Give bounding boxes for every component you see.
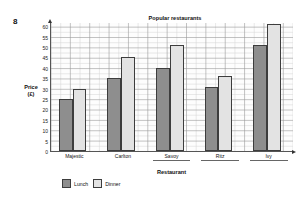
answer-rule xyxy=(201,160,239,161)
bar-savoy-lunch xyxy=(156,68,170,151)
chart-title: Popular restaurants xyxy=(50,15,300,21)
y-axis-tick-label: 55 xyxy=(34,35,48,41)
y-axis-tick-label: 25 xyxy=(34,97,48,103)
y-axis-tick-label: 60 xyxy=(34,24,48,30)
legend-label: Dinner xyxy=(105,181,120,187)
y-axis-tick-label: 35 xyxy=(34,76,48,82)
y-axis-tick-label: 20 xyxy=(34,107,48,113)
x-axis-category-carlton: Carlton xyxy=(99,153,148,160)
x-axis-category-ritz: Ritz xyxy=(196,153,245,161)
y-axis-tick-label: 50 xyxy=(34,45,48,51)
chart-legend: LunchDinner xyxy=(62,179,120,188)
legend-swatch-icon xyxy=(62,179,71,188)
bar-carlton-lunch xyxy=(107,78,121,151)
x-axis-category-ivy: Ivy xyxy=(244,153,293,161)
x-axis-title: Restaurant xyxy=(50,169,293,175)
plot-area xyxy=(50,23,293,152)
bar-ritz-dinner xyxy=(218,76,232,151)
bar-majestic-dinner xyxy=(73,89,87,151)
y-axis-tick-label: 5 xyxy=(34,139,48,145)
x-axis-category-majestic: Majestic xyxy=(50,153,99,160)
y-axis-tick-label: 45 xyxy=(34,55,48,61)
legend-entry-dinner: Dinner xyxy=(93,179,120,188)
x-axis-category-label: Ritz xyxy=(196,153,245,160)
legend-label: Lunch xyxy=(74,181,88,187)
legend-swatch-icon xyxy=(93,179,102,188)
x-axis-category-label: Ivy xyxy=(244,153,293,160)
bar-majestic-lunch xyxy=(59,99,73,151)
bar-ivy-lunch xyxy=(253,45,267,151)
question-number: 8 xyxy=(13,17,17,26)
answer-rule xyxy=(250,160,288,161)
legend-entry-lunch: Lunch xyxy=(62,179,88,188)
y-axis-tick-label: 0 xyxy=(34,149,48,155)
x-axis-category-label: Carlton xyxy=(99,153,148,160)
bar-savoy-dinner xyxy=(170,45,184,151)
bar-carlton-dinner xyxy=(121,57,135,151)
y-axis-tick-label: 15 xyxy=(34,118,48,124)
answer-rule xyxy=(153,160,191,161)
y-axis-tick-label: 40 xyxy=(34,66,48,72)
y-axis-arrow-icon xyxy=(48,19,52,23)
x-axis-category-savoy: Savoy xyxy=(147,153,196,161)
x-axis-category-label: Majestic xyxy=(50,153,99,160)
y-axis-tick-labels: 051015202530354045505560 xyxy=(32,23,48,152)
x-axis-category-labels: MajesticCarltonSavoyRitzIvy xyxy=(50,153,293,169)
x-axis-category-label: Savoy xyxy=(147,153,196,160)
bar-ivy-dinner xyxy=(267,24,281,151)
y-axis-tick-label: 30 xyxy=(34,87,48,93)
bar-ritz-lunch xyxy=(205,87,219,152)
y-axis-tick-label: 10 xyxy=(34,128,48,134)
